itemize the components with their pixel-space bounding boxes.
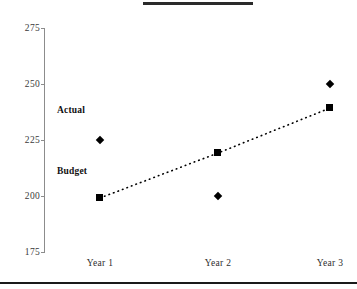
series-label-budget: Budget: [57, 166, 87, 176]
data-point-budget-year-3: [326, 104, 333, 111]
budget-trend-line: [0, 0, 357, 289]
chart-page: 275 250 225 200 175 Year 1 Year 2 Year 3: [0, 0, 357, 289]
data-point-budget-year-1: [96, 194, 103, 201]
plot-area: 275 250 225 200 175 Year 1 Year 2 Year 3: [0, 0, 357, 289]
series-label-actual: Actual: [57, 105, 85, 115]
data-point-budget-year-2: [214, 149, 221, 156]
bottom-horizontal-rule: [0, 282, 357, 284]
